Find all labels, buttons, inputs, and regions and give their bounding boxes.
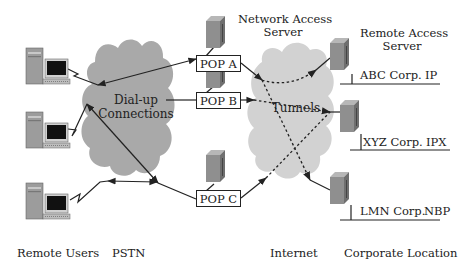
corp-abc-protocol: IP (425, 69, 437, 82)
ras-server-abc-icon (330, 38, 349, 70)
nas-header-line2: Server (238, 26, 328, 39)
footer-pstn: PSTN (112, 247, 145, 260)
corp-lmn-protocol: NBP (424, 205, 450, 218)
pstn-cloud-label-line1: Dial-up (96, 93, 176, 107)
pop-b-box: POP B (196, 92, 241, 109)
remote-user-2-icon (26, 112, 70, 148)
nas-header: Network Access Server (238, 13, 328, 39)
tunnels-label: Tunnels (266, 101, 326, 115)
pstn-cloud-label: Dial-up Connections (96, 93, 176, 121)
footer-remote-users: Remote Users (17, 247, 99, 260)
remote-user-3-icon (26, 183, 70, 219)
ras-header-line2: Server (360, 40, 444, 53)
remote-user-1-icon (26, 48, 70, 84)
corp-xyz-protocol: IPX (426, 136, 446, 149)
nas-server-c-icon (206, 150, 225, 182)
footer-internet: Internet (270, 247, 318, 260)
ras-server-xyz-icon (340, 100, 359, 132)
pstn-cloud-label-line2: Connections (96, 107, 176, 121)
pop-c-box: POP C (196, 190, 241, 207)
ras-server-lmn-icon (330, 172, 349, 204)
ras-header: Remote Access Server (360, 27, 444, 53)
corp-abc-name: ABC Corp. (360, 69, 422, 82)
nas-server-a-icon (206, 16, 225, 48)
footer-corporate-location: Corporate Location (344, 247, 457, 260)
pop-a-box: POP A (196, 55, 241, 72)
corp-lmn-name: LMN Corp. (360, 205, 425, 218)
corp-xyz-name: XYZ Corp. (363, 136, 423, 149)
